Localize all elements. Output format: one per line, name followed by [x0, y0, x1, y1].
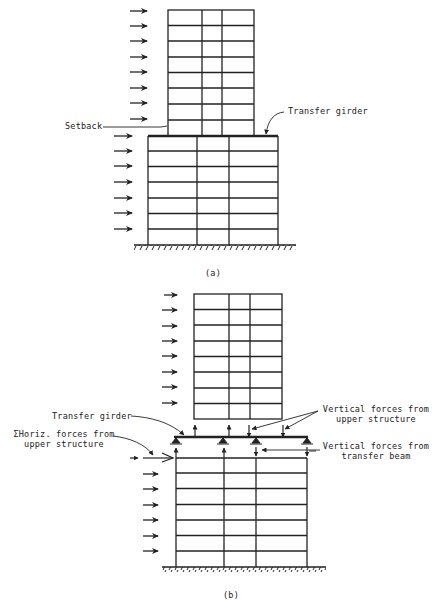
vertical-upper-line1: Vertical forces from	[318, 404, 434, 414]
horiz-forces-line1: ΣHoriz. forces from	[8, 429, 120, 439]
setback-leader	[103, 126, 167, 127]
caption-b: (b)	[223, 590, 239, 600]
vertical-upper-label: Vertical forces from upper structure	[318, 404, 434, 424]
figure-a	[103, 10, 296, 250]
transfer-girder-label-a: Transfer girder	[288, 106, 368, 116]
horiz-forces-label: ΣHoriz. forces from upper structure	[8, 429, 120, 449]
figure-b	[113, 294, 326, 572]
wind-arrows-lower-a	[114, 136, 132, 229]
sum-horizontal-force-arrow	[130, 453, 173, 462]
caption-a: (a)	[205, 268, 221, 278]
vertical-beam-line2: transfer beam	[318, 451, 434, 461]
upper-tower-frame-b	[194, 294, 282, 419]
transfer-girder-label-b: Transfer girder	[52, 411, 132, 421]
structural-diagram	[0, 0, 436, 608]
vertical-beam-label: Vertical forces from transfer beam	[318, 441, 434, 461]
lower-block-frame-b	[176, 458, 307, 567]
pin-supports	[170, 438, 313, 444]
setback-label: Setback	[65, 121, 102, 131]
upper-tower-frame	[168, 10, 254, 136]
ground-a	[134, 245, 296, 250]
lower-block-frame	[148, 136, 278, 245]
horiz-forces-line2: upper structure	[8, 439, 120, 449]
transfer-girder-leader-b	[131, 416, 184, 435]
vertical-beam-line1: Vertical forces from	[318, 441, 434, 451]
vertical-forces-beam	[176, 447, 307, 458]
vertical-forces-upper	[195, 425, 283, 437]
wind-arrows-upper-b	[162, 295, 177, 403]
wind-arrows-lower-b	[143, 474, 158, 551]
vertical-upper-leader-1	[252, 411, 318, 429]
vertical-upper-leader-2	[285, 411, 318, 429]
wind-arrows-upper-a	[130, 11, 147, 119]
ground-b	[162, 567, 326, 572]
transfer-girder-leader-a	[266, 112, 284, 134]
vertical-upper-line2: upper structure	[318, 414, 434, 424]
